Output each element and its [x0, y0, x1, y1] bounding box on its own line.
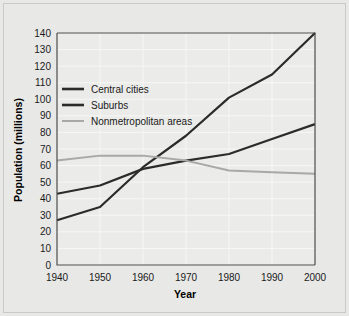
line-chart: 0102030405060708090100110120130140 19401… — [0, 0, 349, 316]
chart-figure: 0102030405060708090100110120130140 19401… — [0, 0, 349, 316]
legend-label: Suburbs — [91, 100, 128, 111]
x-tick-label: 1980 — [218, 272, 241, 283]
y-tick-label: 110 — [35, 77, 51, 88]
y-tick-label: 120 — [34, 61, 51, 72]
y-tick-label: 30 — [40, 210, 52, 221]
y-axis-title: Population (millions) — [12, 98, 24, 202]
x-axis-tick-labels: 1940195019601970198019902000 — [46, 272, 327, 283]
y-tick-label: 50 — [40, 177, 52, 188]
x-tick-label: 1990 — [261, 272, 284, 283]
y-tick-label: 130 — [34, 44, 51, 55]
y-tick-label: 0 — [45, 260, 51, 271]
y-tick-label: 70 — [40, 144, 52, 155]
y-axis-tick-labels: 0102030405060708090100110120130140 — [34, 28, 51, 271]
y-tick-label: 40 — [40, 193, 52, 204]
x-tick-label: 1950 — [89, 272, 112, 283]
y-tick-label: 90 — [40, 110, 52, 121]
y-tick-label: 100 — [34, 94, 51, 105]
x-tick-label: 1940 — [46, 272, 69, 283]
x-tick-label: 1960 — [132, 272, 155, 283]
y-tick-label: 10 — [40, 243, 52, 254]
legend-label: Nonmetropolitan areas — [91, 116, 192, 127]
y-tick-label: 60 — [40, 160, 52, 171]
legend-label: Central cities — [91, 84, 149, 95]
x-axis-title: Year — [174, 288, 196, 300]
y-tick-label: 20 — [40, 226, 52, 237]
y-tick-label: 80 — [40, 127, 52, 138]
y-tick-label: 140 — [34, 28, 51, 39]
x-tick-label: 2000 — [304, 272, 327, 283]
x-tick-label: 1970 — [175, 272, 198, 283]
